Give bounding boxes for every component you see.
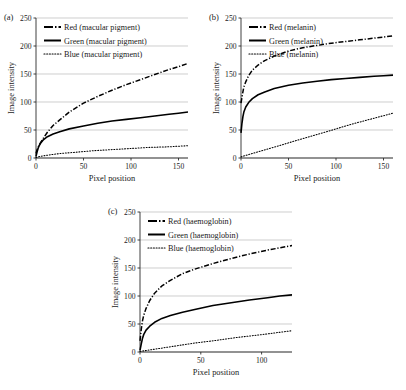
chart-panel-b: (b) 050100150200250050100150Pixel positi… [205,4,405,194]
legend-label-2: Blue (haemoglobin) [168,244,234,253]
y-axis-tick-label: 0 [132,348,136,357]
chart-svg-a: 050100150200250050100150Pixel positionIm… [0,4,200,194]
series-line-0 [36,63,188,153]
x-axis-label: Pixel position [193,368,240,377]
x-axis-tick-label: 50 [80,162,88,171]
legend-label-0: Red (haemoglobin) [168,217,232,226]
legend-label-1: Green (macular pigment) [64,37,147,46]
y-axis-tick-label: 150 [225,70,237,79]
y-axis-tick-label: 100 [124,292,136,301]
x-axis-label: Pixel position [294,174,341,183]
legend-label-0: Red (macular pigment) [64,23,140,32]
y-axis-tick-label: 200 [20,42,32,51]
panel-label-c: (c) [108,206,117,216]
chart-panel-c: (c) 050100150200250050100Pixel positionI… [100,198,310,388]
x-axis-tick-label: 100 [125,162,137,171]
y-axis-label: Image intensity [212,61,221,114]
x-axis-tick-label: 0 [138,356,142,365]
y-axis-tick-label: 50 [229,126,237,135]
x-axis-tick-label: 100 [256,356,268,365]
y-axis-label: Image intensity [7,61,16,114]
figure-container: (a) 050100150200250050100150Pixel positi… [0,0,406,390]
x-axis-tick-label: 0 [239,162,243,171]
panel-label-b: (b) [209,12,219,22]
y-axis-tick-label: 0 [233,154,237,163]
legend-label-2: Blue (melanin) [269,50,319,59]
x-axis-tick-label: 50 [285,162,293,171]
x-axis-tick-label: 0 [34,162,38,171]
y-axis-tick-label: 100 [20,98,32,107]
y-axis-tick-label: 250 [225,14,237,23]
y-axis-tick-label: 50 [24,126,32,135]
series-line-1 [140,295,292,350]
x-axis-tick-label: 150 [378,162,390,171]
legend-label-2: Blue (macular pigment) [64,50,142,59]
y-axis-tick-label: 50 [128,320,136,329]
series-line-0 [140,246,292,341]
y-axis-tick-label: 250 [20,14,32,23]
y-axis-tick-label: 250 [124,208,136,217]
chart-svg-c: 050100150200250050100Pixel positionImage… [100,198,310,388]
legend-label-1: Green (melanin) [269,37,323,46]
series-line-1 [241,75,393,133]
y-axis-tick-label: 150 [20,70,32,79]
y-axis-tick-label: 200 [225,42,237,51]
chart-panel-a: (a) 050100150200250050100150Pixel positi… [0,4,200,194]
series-line-2 [36,146,188,158]
x-axis-tick-label: 50 [197,356,205,365]
series-line-2 [140,331,292,352]
x-axis-tick-label: 100 [330,162,342,171]
series-line-2 [241,113,393,157]
panel-label-a: (a) [4,12,13,22]
y-axis-tick-label: 200 [124,236,136,245]
legend-label-0: Red (melanin) [269,23,316,32]
y-axis-tick-label: 150 [124,264,136,273]
x-axis-tick-label: 150 [173,162,185,171]
chart-svg-b: 050100150200250050100150Pixel positionIm… [205,4,405,194]
y-axis-label: Image intensity [111,255,120,308]
x-axis-label: Pixel position [89,174,136,183]
y-axis-tick-label: 100 [225,98,237,107]
legend-label-1: Green (haemoglobin) [168,231,239,240]
y-axis-tick-label: 0 [28,154,32,163]
